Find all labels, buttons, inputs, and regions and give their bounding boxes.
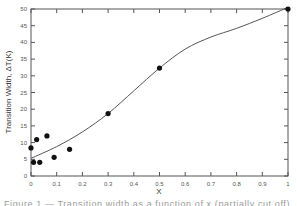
y-tick-label: 25	[20, 90, 27, 96]
x-tick-label: 0.2	[78, 181, 87, 187]
series-layer	[28, 6, 290, 165]
data-point	[106, 111, 111, 116]
x-tick-label: 0.8	[232, 181, 241, 187]
data-point	[28, 145, 33, 150]
x-tick-label: 0.3	[104, 181, 113, 187]
data-point	[157, 66, 162, 71]
x-tick-label: 0	[29, 181, 33, 187]
x-tick-label: 0.9	[258, 181, 267, 187]
y-ticks: 05101520253035404550	[20, 6, 288, 179]
x-tick-label: 1	[286, 181, 290, 187]
data-point	[44, 133, 49, 138]
x-tick-label: 0.7	[207, 181, 216, 187]
data-point	[52, 155, 57, 160]
x-tick-label: 0.6	[181, 181, 190, 187]
y-tick-label: 15	[20, 123, 27, 129]
data-point	[37, 160, 42, 165]
y-tick-label: 40	[20, 39, 27, 45]
chart: 00.10.20.30.40.50.60.70.80.91 0510152025…	[0, 0, 297, 206]
y-tick-label: 45	[20, 23, 27, 29]
fit-curve	[31, 7, 288, 158]
figure-caption: Figure 1 — Transition width as a functio…	[4, 199, 290, 206]
data-point	[31, 160, 36, 165]
y-tick-label: 20	[20, 106, 27, 112]
y-tick-label: 30	[20, 73, 27, 79]
data-point	[67, 147, 72, 152]
y-tick-label: 5	[24, 156, 28, 162]
data-point	[285, 6, 290, 11]
x-axis-label: X	[156, 187, 162, 196]
y-tick-label: 10	[20, 140, 27, 146]
y-tick-label: 35	[20, 56, 27, 62]
x-tick-label: 0.4	[130, 181, 139, 187]
y-axis-label: Transition Width, ΔT(K)	[4, 50, 13, 133]
y-tick-label: 0	[24, 173, 28, 179]
data-point	[34, 137, 39, 142]
y-tick-label: 50	[20, 6, 27, 12]
x-ticks: 00.10.20.30.40.50.60.70.80.91	[29, 9, 290, 187]
x-tick-label: 0.1	[53, 181, 62, 187]
